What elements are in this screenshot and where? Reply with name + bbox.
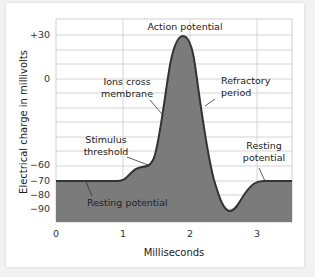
annotation-resting-right-line1: Resting bbox=[246, 140, 281, 151]
annotation-stimulus-line1: Stimulus bbox=[85, 134, 126, 145]
annotation-action-potential: Action potential bbox=[147, 21, 222, 32]
annotation-stimulus-line2: threshold bbox=[84, 146, 129, 157]
x-tick-1: 1 bbox=[120, 228, 126, 239]
y-tick-minus80: −80 bbox=[30, 189, 50, 200]
y-tick-plus30: +30 bbox=[30, 29, 50, 40]
x-tick-3: 3 bbox=[254, 228, 260, 239]
y-tick-minus60: −60 bbox=[30, 159, 50, 170]
annotation-ions-cross-line2: membrane bbox=[101, 88, 153, 99]
action-potential-chart: +30 0 −60 −70 −80 −90 0 1 2 3 Millisecon… bbox=[0, 0, 315, 277]
x-tick-2: 2 bbox=[187, 228, 193, 239]
y-tick-minus90: −90 bbox=[30, 203, 50, 214]
y-tick-minus70: −70 bbox=[30, 175, 50, 186]
x-tick-0: 0 bbox=[53, 228, 59, 239]
annotation-refractory-line2: period bbox=[221, 87, 251, 98]
annotation-refractory-line1: Refractory bbox=[221, 75, 271, 86]
y-tick-0: 0 bbox=[44, 73, 50, 84]
annotation-resting-right-line2: potential bbox=[243, 152, 285, 163]
y-axis-title: Electrical charge in millivolts bbox=[18, 50, 29, 194]
annotation-ions-cross-line1: Ions cross bbox=[103, 76, 150, 87]
x-axis-title: Milliseconds bbox=[144, 247, 205, 258]
annotation-resting-left: Resting potential bbox=[87, 197, 168, 208]
